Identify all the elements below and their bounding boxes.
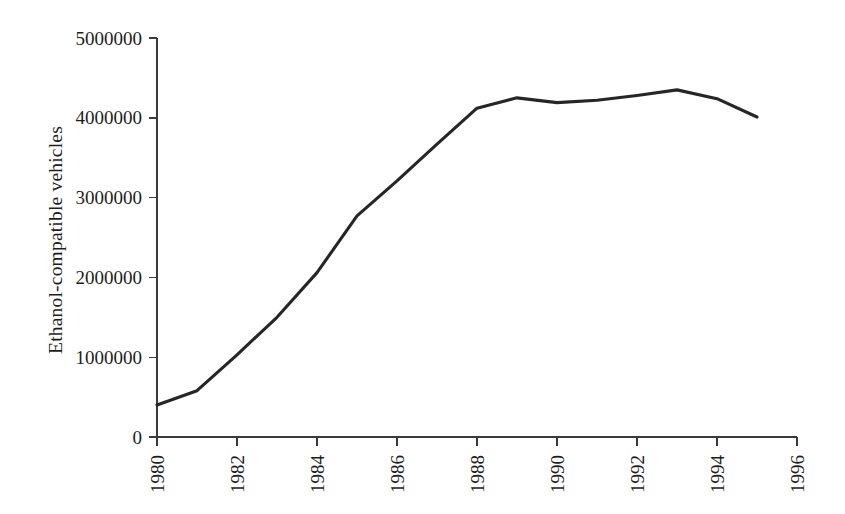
x-tick-label: 1994	[707, 455, 728, 494]
x-tick-label: 1988	[467, 455, 488, 493]
y-tick-label: 1000000	[76, 347, 143, 368]
x-tick-label: 1990	[547, 455, 568, 493]
y-tick-label: 3000000	[76, 187, 143, 208]
x-tick-label: 1982	[227, 455, 248, 493]
y-tick-label: 5000000	[76, 28, 143, 49]
x-tick-label: 1992	[627, 455, 648, 493]
x-axis-tick-labels: 198019821984198619881990199219941996	[147, 455, 808, 494]
line-chart: Ethanol-compatible vehicles 010000002000…	[0, 0, 845, 514]
x-tick-label: 1980	[147, 455, 168, 493]
x-tick-label: 1996	[787, 455, 808, 493]
chart-container: Ethanol-compatible vehicles 010000002000…	[0, 0, 845, 514]
y-tick-label: 4000000	[76, 107, 143, 128]
y-tick-label: 0	[133, 427, 143, 448]
x-tick-label: 1984	[307, 455, 328, 494]
y-axis-label: Ethanol-compatible vehicles	[45, 126, 66, 354]
y-tick-label: 2000000	[76, 267, 143, 288]
x-tick-label: 1986	[387, 455, 408, 493]
